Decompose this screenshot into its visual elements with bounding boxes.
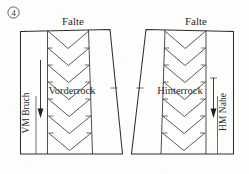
figure-number: 4 bbox=[8, 7, 19, 18]
front-fold-edge-label: VM Bruch bbox=[21, 92, 31, 133]
pattern-diagram-svg: 4 Falte bbox=[0, 0, 249, 174]
back-falte-label: Falte bbox=[185, 15, 207, 27]
front-falte-label: Falte bbox=[62, 15, 84, 27]
front-panel-name-label: Vorderrock bbox=[48, 85, 96, 96]
panel-back: Falte bbox=[132, 15, 234, 154]
back-seam-edge-label: HM Nahe bbox=[218, 93, 228, 131]
pattern-diagram-canvas: 4 Falte bbox=[0, 0, 249, 174]
back-grainline-arrow bbox=[210, 78, 217, 118]
front-grainline-arrow bbox=[38, 60, 44, 118]
back-panel-name-label: Hinterrock bbox=[157, 85, 203, 96]
panel-front: Falte bbox=[21, 15, 123, 154]
figure-number-label: 4 bbox=[11, 8, 16, 18]
